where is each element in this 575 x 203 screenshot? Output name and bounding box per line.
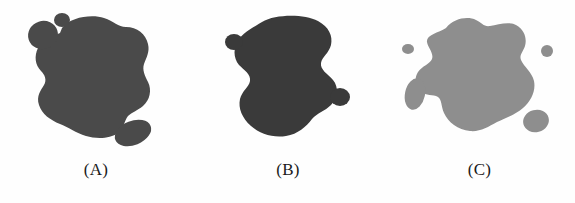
panel-a: (A) bbox=[0, 0, 192, 203]
blob-a-figure bbox=[0, 0, 192, 160]
figure-canvas: (A) (B) bbox=[0, 0, 575, 203]
blob-c-satellite-left-dot bbox=[402, 44, 414, 54]
blob-b-svg bbox=[192, 0, 384, 160]
blob-c-satellite-right-dot bbox=[541, 45, 553, 57]
blob-b-satellite-left-circle bbox=[225, 34, 243, 50]
blob-c-main-body bbox=[416, 18, 535, 131]
blob-b-satellite-right-circle bbox=[330, 88, 350, 106]
panel-b-label: (B) bbox=[192, 160, 384, 180]
blob-c-figure bbox=[384, 0, 575, 160]
blob-a-satellite-top-dot bbox=[54, 13, 70, 27]
panel-a-label: (A) bbox=[0, 160, 192, 180]
blob-b-main-body bbox=[235, 16, 337, 137]
blob-c-svg bbox=[384, 0, 575, 160]
panel-b: (B) bbox=[192, 0, 384, 203]
blob-b-figure bbox=[192, 0, 384, 160]
blob-a-svg bbox=[0, 0, 192, 160]
panel-c-label: (C) bbox=[384, 160, 575, 180]
panel-c: (C) bbox=[384, 0, 575, 203]
blob-c-satellite-lower-right-round bbox=[521, 107, 552, 135]
